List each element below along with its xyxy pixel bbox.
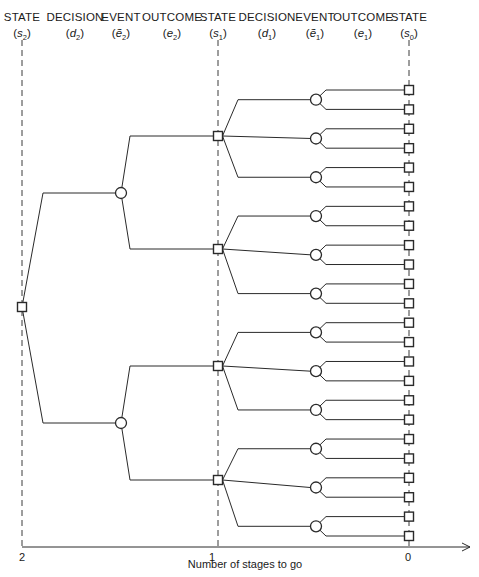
terminal-state-node-icon [405,202,414,211]
event-chance-node-icon [116,188,127,199]
terminal-state-node-icon [405,105,414,114]
branch-line [319,439,405,446]
terminal-state-node-icon [405,338,414,347]
root-state-node-icon [18,303,27,312]
event-chance-node-icon [311,133,322,144]
terminal-state-node-icon [405,357,414,366]
branch-line [319,103,405,110]
event-chance-node-icon [311,366,322,377]
terminal-state-node-icon [405,260,414,269]
branch-line [319,400,405,407]
terminal-state-node-icon [405,182,414,191]
branch-line [319,219,405,226]
branch-line [319,180,405,187]
branch-line [319,335,405,342]
branch-line [319,529,405,536]
event-chance-node-icon [116,418,127,429]
branch-line [22,193,116,307]
terminal-state-node-icon [405,473,414,482]
terminal-state-node-icon [405,124,414,133]
state-decision-node-icon [214,245,223,254]
terminal-state-node-icon [405,435,414,444]
state-decision-node-icon [214,362,223,371]
terminal-state-node-icon [405,512,414,521]
event-chance-node-icon [311,482,322,493]
terminal-state-node-icon [405,144,414,153]
event-chance-node-icon [311,249,322,260]
branch-line [223,332,311,366]
branch-line [319,284,405,291]
branch-line [223,480,311,526]
branch-line [22,307,116,423]
branch-line [319,413,405,420]
terminal-state-node-icon [405,376,414,385]
branch-line [223,249,311,294]
branch-line [319,90,405,97]
axis-tick-2: 2 [19,551,25,563]
branch-line [319,452,405,459]
terminal-state-node-icon [405,163,414,172]
event-chance-node-icon [311,404,322,415]
branch-line [121,193,214,249]
terminal-state-node-icon [405,299,414,308]
terminal-state-node-icon [405,415,414,424]
branch-line [319,129,405,136]
branch-line [223,136,311,177]
decision-tree [0,0,479,577]
terminal-state-node-icon [405,532,414,541]
terminal-state-node-icon [405,279,414,288]
event-chance-node-icon [311,94,322,105]
event-chance-node-icon [311,327,322,338]
branch-line [319,258,405,265]
branch-line [319,374,405,381]
event-chance-node-icon [311,521,322,532]
axis-tick-0: 0 [405,551,411,563]
branch-line [319,491,405,498]
branch-line [223,100,311,136]
axis-title: Number of stages to go [188,558,302,570]
branch-line [319,323,405,330]
state-decision-node-icon [214,132,223,141]
branch-line [319,168,405,175]
event-chance-node-icon [311,288,322,299]
terminal-state-node-icon [405,454,414,463]
event-chance-node-icon [311,211,322,222]
branch-line [223,249,311,255]
terminal-state-node-icon [405,86,414,95]
terminal-state-node-icon [405,493,414,502]
branch-line [121,136,214,193]
branch-line [319,361,405,368]
branch-line [223,366,311,410]
branch-line [121,366,214,423]
terminal-state-node-icon [405,318,414,327]
branch-line [319,245,405,252]
terminal-state-node-icon [405,396,414,405]
branch-line [319,297,405,304]
branch-line [223,136,311,138]
branch-line [319,141,405,148]
branch-line [319,206,405,213]
branch-line [223,216,311,249]
branch-line [223,449,311,480]
terminal-state-node-icon [405,221,414,230]
terminal-state-node-icon [405,241,414,250]
branch-line [319,478,405,485]
state-decision-node-icon [214,476,223,485]
branch-line [223,480,311,488]
event-chance-node-icon [311,443,322,454]
branch-line [121,423,214,480]
event-chance-node-icon [311,172,322,183]
branch-line [223,366,311,371]
branch-line [319,517,405,524]
